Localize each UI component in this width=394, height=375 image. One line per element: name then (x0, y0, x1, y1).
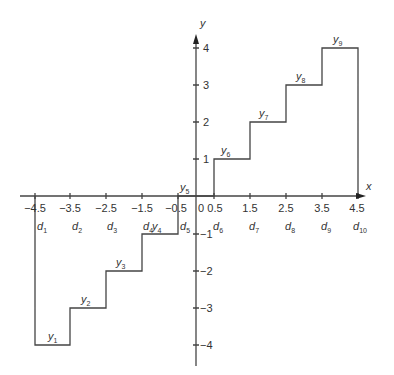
y-tick-label: −1 (200, 228, 213, 240)
x-tick-label: 4.5 (349, 202, 364, 214)
x-tick-label: −3.5 (59, 202, 81, 214)
x-axis-label: x (365, 180, 372, 192)
x-tick-label: 0 (198, 202, 204, 214)
x-tick-label: 3.5 (314, 202, 329, 214)
y-tick-label: −3 (200, 302, 213, 314)
y-level-label: y4 (151, 220, 162, 234)
d-label: d10 (353, 220, 367, 234)
d-label: d5 (180, 220, 190, 234)
x-axis-arrow (356, 193, 366, 199)
y-level-label: y3 (115, 256, 126, 270)
d-label: d6 (213, 220, 223, 234)
y-level-label: y9 (332, 33, 343, 47)
x-tick-label: 2.5 (278, 202, 293, 214)
d-label: d2 (72, 220, 82, 234)
d-label: d1 (37, 220, 47, 234)
y-tick-label: −2 (200, 265, 213, 277)
d-label: d9 (321, 220, 331, 234)
x-tick-label: −1.5 (131, 202, 153, 214)
y-axis-arrow (193, 34, 199, 44)
y-tick-label: 1 (203, 153, 209, 165)
x-tick-label: 1.5 (242, 202, 257, 214)
y-axis-label: y (199, 17, 207, 29)
y-level-label: y1 (47, 330, 58, 344)
step-quantizer-chart: y x −4.5 −3.5 −2.5 −1.5 −0.5 0 0.5 1.5 2… (0, 0, 394, 375)
y-tick-label: 4 (203, 42, 209, 54)
d-label: d8 (285, 220, 295, 234)
y-level-label: y6 (220, 144, 231, 158)
x-tick-label: −4.5 (24, 202, 46, 214)
y-tick-label: 2 (203, 116, 209, 128)
x-tick-label: −2.5 (95, 202, 117, 214)
y-level-label: y7 (258, 107, 269, 121)
y-level-label: y5 (179, 181, 190, 195)
y-level-label: y2 (80, 293, 91, 307)
x-tick-label: 0.5 (207, 202, 222, 214)
y-tick-label: −4 (200, 339, 213, 351)
x-tick-label: −0.5 (165, 202, 187, 214)
d-label: d7 (249, 220, 259, 234)
y-tick-label: 3 (203, 79, 209, 91)
y-level-label: y8 (295, 70, 306, 84)
d-label: d3 (107, 220, 117, 234)
